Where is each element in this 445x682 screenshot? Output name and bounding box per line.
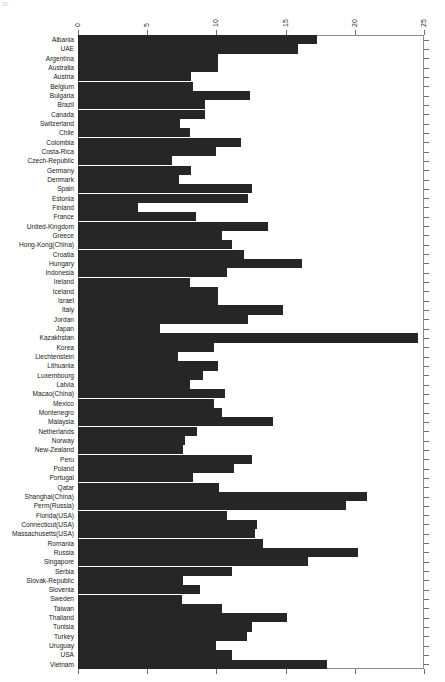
bar-row[interactable] xyxy=(78,389,424,398)
bar-row[interactable] xyxy=(78,324,424,333)
bar-row[interactable] xyxy=(78,473,424,482)
bar-row[interactable] xyxy=(78,72,424,81)
bar-row[interactable] xyxy=(78,175,424,184)
bar-row[interactable] xyxy=(78,660,424,669)
bar[interactable] xyxy=(78,650,232,659)
bar-row[interactable] xyxy=(78,371,424,380)
bar-row[interactable] xyxy=(78,548,424,557)
bar-row[interactable] xyxy=(78,296,424,305)
bar-row[interactable] xyxy=(78,156,424,165)
bar[interactable] xyxy=(78,44,298,53)
bar-row[interactable] xyxy=(78,539,424,548)
bar-row[interactable] xyxy=(78,63,424,72)
bar-row[interactable] xyxy=(78,110,424,119)
bar-row[interactable] xyxy=(78,222,424,231)
bar-row[interactable] xyxy=(78,529,424,538)
bar[interactable] xyxy=(78,595,182,604)
bar[interactable] xyxy=(78,529,255,538)
bar[interactable] xyxy=(78,156,172,165)
bar[interactable] xyxy=(78,622,252,631)
bar-row[interactable] xyxy=(78,352,424,361)
bar-row[interactable] xyxy=(78,501,424,510)
bar[interactable] xyxy=(78,343,214,352)
bar[interactable] xyxy=(78,436,185,445)
bar-row[interactable] xyxy=(78,91,424,100)
bar-row[interactable] xyxy=(78,567,424,576)
bar-row[interactable] xyxy=(78,259,424,268)
bar[interactable] xyxy=(78,501,346,510)
bar-row[interactable] xyxy=(78,650,424,659)
bar[interactable] xyxy=(78,371,203,380)
bar-row[interactable] xyxy=(78,361,424,370)
bar[interactable] xyxy=(78,54,218,63)
bar-row[interactable] xyxy=(78,622,424,631)
bar[interactable] xyxy=(78,147,216,156)
bar-row[interactable] xyxy=(78,54,424,63)
bar[interactable] xyxy=(78,259,302,268)
bar-row[interactable] xyxy=(78,417,424,426)
bar[interactable] xyxy=(78,128,190,137)
bar-row[interactable] xyxy=(78,445,424,454)
bar[interactable] xyxy=(78,315,248,324)
bar[interactable] xyxy=(78,352,178,361)
bar-row[interactable] xyxy=(78,119,424,128)
bar-row[interactable] xyxy=(78,464,424,473)
bar-row[interactable] xyxy=(78,231,424,240)
bar-row[interactable] xyxy=(78,408,424,417)
bar-row[interactable] xyxy=(78,427,424,436)
bar-row[interactable] xyxy=(78,203,424,212)
bar[interactable] xyxy=(78,72,191,81)
bar-row[interactable] xyxy=(78,399,424,408)
bar-row[interactable] xyxy=(78,380,424,389)
bar[interactable] xyxy=(78,632,247,641)
bar[interactable] xyxy=(78,473,193,482)
bar-row[interactable] xyxy=(78,595,424,604)
bar-row[interactable] xyxy=(78,194,424,203)
bar-row[interactable] xyxy=(78,147,424,156)
bar[interactable] xyxy=(78,250,244,259)
bar[interactable] xyxy=(78,399,214,408)
bar[interactable] xyxy=(78,455,252,464)
bar[interactable] xyxy=(78,119,180,128)
bar-row[interactable] xyxy=(78,212,424,221)
bar-row[interactable] xyxy=(78,138,424,147)
bar-row[interactable] xyxy=(78,492,424,501)
bar[interactable] xyxy=(78,445,183,454)
bar-row[interactable] xyxy=(78,82,424,91)
bar[interactable] xyxy=(78,539,263,548)
bar[interactable] xyxy=(78,166,191,175)
bar-row[interactable] xyxy=(78,305,424,314)
bar-row[interactable] xyxy=(78,520,424,529)
bar-row[interactable] xyxy=(78,35,424,44)
bar[interactable] xyxy=(78,287,218,296)
bar[interactable] xyxy=(78,324,160,333)
bar[interactable] xyxy=(78,557,308,566)
bar-row[interactable] xyxy=(78,287,424,296)
bar[interactable] xyxy=(78,175,179,184)
bar[interactable] xyxy=(78,660,327,669)
bar-row[interactable] xyxy=(78,604,424,613)
bar[interactable] xyxy=(78,268,227,277)
bar-row[interactable] xyxy=(78,576,424,585)
bar-row[interactable] xyxy=(78,44,424,53)
bar[interactable] xyxy=(78,548,358,557)
bar-row[interactable] xyxy=(78,613,424,622)
bar-row[interactable] xyxy=(78,436,424,445)
bar-row[interactable] xyxy=(78,632,424,641)
bar-row[interactable] xyxy=(78,585,424,594)
bar-row[interactable] xyxy=(78,455,424,464)
bar-row[interactable] xyxy=(78,240,424,249)
bar[interactable] xyxy=(78,203,138,212)
bar[interactable] xyxy=(78,585,200,594)
bar[interactable] xyxy=(78,138,241,147)
bar[interactable] xyxy=(78,91,250,100)
bar-row[interactable] xyxy=(78,641,424,650)
bar[interactable] xyxy=(78,305,283,314)
bar[interactable] xyxy=(78,408,222,417)
bar[interactable] xyxy=(78,492,367,501)
bar[interactable] xyxy=(78,240,232,249)
bar[interactable] xyxy=(78,604,222,613)
bar-row[interactable] xyxy=(78,343,424,352)
bar[interactable] xyxy=(78,63,218,72)
bar-row[interactable] xyxy=(78,100,424,109)
